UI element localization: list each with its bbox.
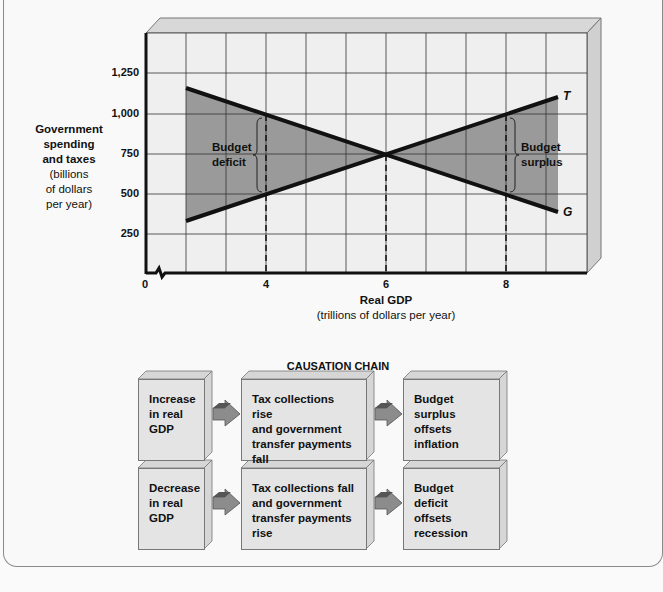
y-tick: 1,000	[95, 107, 139, 119]
y-title-line: Government	[30, 122, 108, 137]
box-text-line: recession	[414, 526, 489, 541]
surplus-label-line: Budget	[521, 140, 563, 155]
box-text-line: offsets	[414, 422, 489, 437]
x-tick: 6	[376, 278, 396, 290]
x-tick: 4	[256, 278, 276, 290]
box-text-line: Budget deficit	[414, 481, 489, 511]
box-text-line: Increase	[149, 392, 194, 407]
x-subtitle: (trillions of dollars per year)	[286, 308, 486, 323]
t-line-label: T	[563, 89, 570, 103]
y-tick: 1,250	[95, 66, 139, 78]
y-tick: 750	[95, 147, 139, 159]
y-tick: 500	[95, 187, 139, 199]
chart-top-face	[146, 18, 601, 33]
deficit-label-line: Budget	[212, 140, 252, 155]
box-text-line: transfer payments rise	[252, 511, 356, 541]
y-subtitle-line: (billions	[30, 167, 108, 182]
budget-surplus-label: Budget surplus	[521, 140, 563, 170]
box-text-line: Tax collections fall	[252, 481, 356, 496]
box-text-line: in real	[149, 496, 194, 511]
y-tick: 250	[95, 227, 139, 239]
x-tick: 8	[496, 278, 516, 290]
x-title: Real GDP	[286, 293, 486, 308]
g-line-label: G	[563, 205, 572, 219]
box-text-line: inflation	[414, 437, 489, 452]
box-text-line: and government	[252, 422, 356, 437]
y-subtitle-line: per year)	[30, 197, 108, 212]
box-text-line: Decrease	[149, 481, 194, 496]
surplus-label-line: surplus	[521, 155, 563, 170]
box-text-line: Tax collections rise	[252, 392, 356, 422]
box-text-line: GDP	[149, 511, 194, 526]
chart-side-face	[587, 18, 601, 273]
box-text-line: in real	[149, 407, 194, 422]
box-text-line: offsets	[414, 511, 489, 526]
x-tick: 0	[135, 278, 155, 290]
budget-deficit-label: Budget deficit	[212, 140, 252, 170]
x-axis-title: Real GDP (trillions of dollars per year)	[286, 293, 486, 323]
box-text-line: transfer payments fall	[252, 437, 356, 467]
box-text-line: GDP	[149, 422, 194, 437]
box-text-line: Budget surplus	[414, 392, 489, 422]
deficit-label-line: deficit	[212, 155, 252, 170]
box-text-line: and government	[252, 496, 356, 511]
